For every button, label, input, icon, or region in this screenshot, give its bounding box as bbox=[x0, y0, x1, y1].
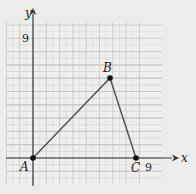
point-a-label: A bbox=[19, 160, 29, 174]
coordinate-plane: x y 9 9 A B C bbox=[0, 0, 196, 194]
point-a bbox=[30, 155, 36, 161]
x-axis-arrow-icon bbox=[172, 155, 179, 162]
point-c-label: C bbox=[131, 161, 140, 175]
point-b bbox=[107, 75, 113, 81]
diagram: x y 9 9 A B C bbox=[0, 0, 196, 194]
grid bbox=[6, 22, 162, 184]
point-c bbox=[133, 155, 139, 161]
y-axis-label: y bbox=[24, 6, 32, 20]
y-tick-label: 9 bbox=[22, 32, 29, 45]
x-tick-label: 9 bbox=[145, 161, 152, 174]
x-axis-label: x bbox=[181, 151, 188, 165]
point-b-label: B bbox=[102, 61, 112, 75]
